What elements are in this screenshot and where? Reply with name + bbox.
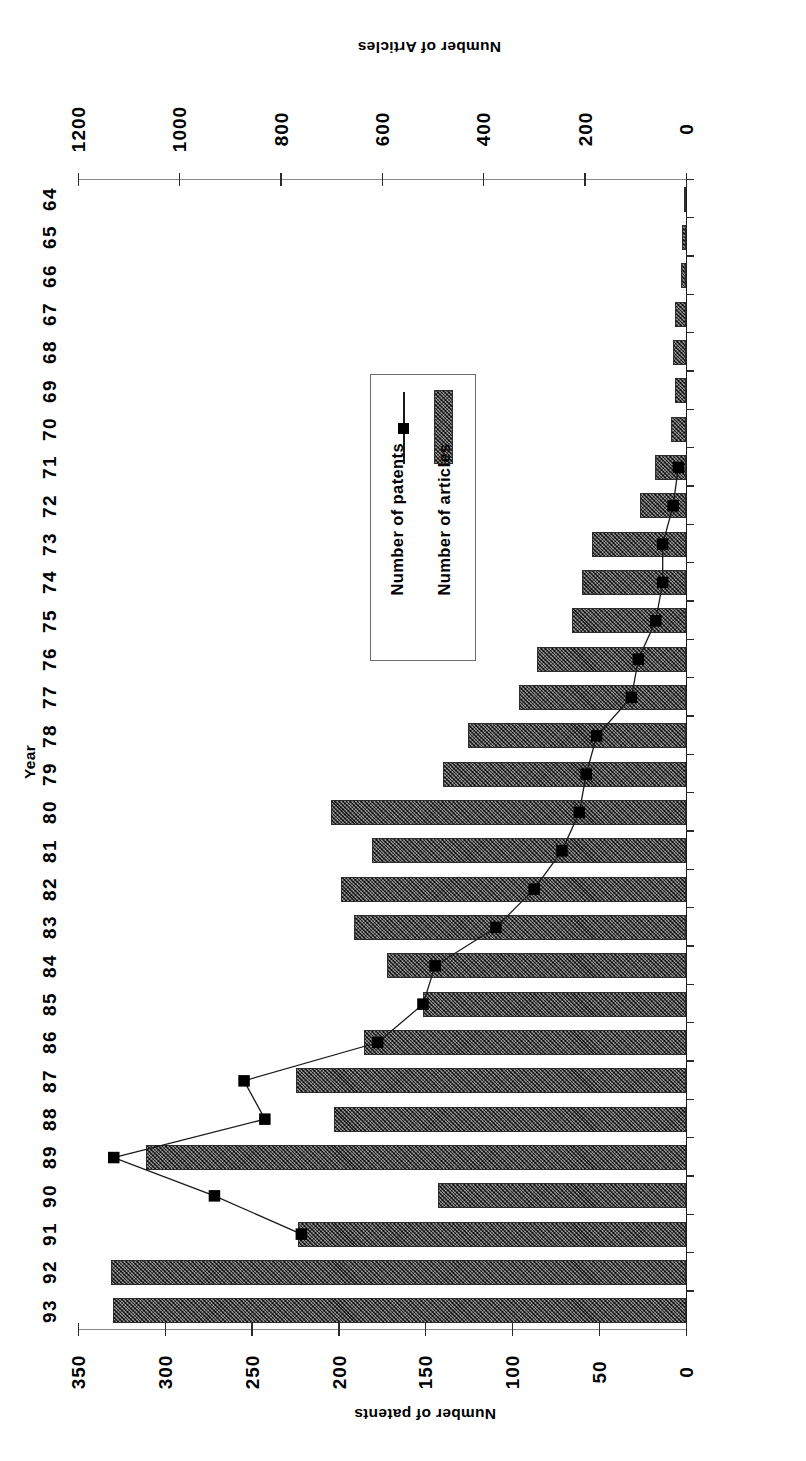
patents-marker-74 bbox=[657, 577, 669, 589]
patents-marker-71 bbox=[673, 462, 685, 474]
patents-marker-86 bbox=[372, 1037, 384, 1049]
patents-tick-350 bbox=[78, 1323, 79, 1336]
articles-tick-label-200: 200 bbox=[575, 99, 597, 159]
patents-marker-83 bbox=[490, 922, 502, 934]
year-label-84: 84 bbox=[39, 949, 61, 983]
category-tick-93 bbox=[686, 1290, 694, 1291]
articles-tick-label-800: 800 bbox=[271, 99, 293, 159]
year-label-85: 85 bbox=[39, 987, 61, 1021]
year-label-90: 90 bbox=[39, 1179, 61, 1213]
patents-tick-50 bbox=[599, 1323, 600, 1336]
year-label-81: 81 bbox=[39, 834, 61, 868]
articles-tick-label-0: 0 bbox=[676, 99, 698, 159]
patents-marker-87 bbox=[238, 1075, 250, 1087]
secondary-axis-title: Number of patents bbox=[354, 1405, 496, 1423]
patents-tick-label-100: 100 bbox=[502, 1342, 524, 1402]
patents-marker-88 bbox=[259, 1113, 271, 1125]
year-label-83: 83 bbox=[39, 911, 61, 945]
category-tick-89 bbox=[686, 1137, 694, 1138]
category-tick-80 bbox=[686, 792, 694, 793]
year-label-82: 82 bbox=[39, 872, 61, 906]
patents-marker-78 bbox=[591, 730, 603, 742]
year-label-66: 66 bbox=[39, 259, 61, 293]
year-label-91: 91 bbox=[39, 1217, 61, 1251]
category-tick-81 bbox=[686, 830, 694, 831]
year-label-92: 92 bbox=[39, 1256, 61, 1290]
patents-tick-200 bbox=[338, 1323, 339, 1336]
year-label-75: 75 bbox=[39, 604, 61, 638]
patents-marker-72 bbox=[667, 500, 679, 512]
category-tick-72 bbox=[686, 485, 694, 486]
articles-tick-200 bbox=[584, 173, 585, 186]
year-label-80: 80 bbox=[39, 796, 61, 830]
legend-label-articles: Number of articles bbox=[435, 506, 454, 596]
category-tick-88 bbox=[686, 1099, 694, 1100]
year-label-77: 77 bbox=[39, 681, 61, 715]
year-label-64: 64 bbox=[39, 182, 61, 216]
year-label-88: 88 bbox=[39, 1102, 61, 1136]
articles-tick-600 bbox=[382, 173, 383, 186]
patents-tick-label-200: 200 bbox=[329, 1342, 351, 1402]
patents-tick-label-350: 350 bbox=[68, 1342, 90, 1402]
category-tick-90 bbox=[686, 1175, 694, 1176]
year-label-72: 72 bbox=[39, 489, 61, 523]
chart-canvas: 6465666768697071727374757677787980818283… bbox=[0, 0, 806, 1461]
legend-square-marker-icon bbox=[399, 423, 410, 434]
patents-tick-label-300: 300 bbox=[155, 1342, 177, 1402]
patents-marker-89 bbox=[108, 1152, 120, 1164]
patents-marker-84 bbox=[429, 960, 441, 972]
legend: Number of articles Number of patents bbox=[370, 374, 476, 661]
category-tick-83 bbox=[686, 907, 694, 908]
patents-marker-77 bbox=[626, 692, 638, 704]
category-tick-79 bbox=[686, 754, 694, 755]
patents-tick-label-50: 50 bbox=[589, 1342, 611, 1402]
patents-marker-81 bbox=[556, 845, 568, 857]
articles-tick-1200 bbox=[78, 173, 79, 186]
patents-marker-90 bbox=[209, 1190, 221, 1202]
category-tick-78 bbox=[686, 715, 694, 716]
category-tick-77 bbox=[686, 677, 694, 678]
category-tick-91 bbox=[686, 1214, 694, 1215]
year-label-71: 71 bbox=[39, 451, 61, 485]
category-tick-65 bbox=[686, 217, 694, 218]
category-axis-title: Year bbox=[21, 745, 39, 779]
category-tick-87 bbox=[686, 1060, 694, 1061]
category-tick-71 bbox=[686, 447, 694, 448]
patents-marker-79 bbox=[581, 768, 593, 780]
plot-area: 6465666768697071727374757677787980818283… bbox=[79, 180, 687, 1330]
year-label-79: 79 bbox=[39, 757, 61, 791]
patents-tick-300 bbox=[165, 1323, 166, 1336]
year-label-78: 78 bbox=[39, 719, 61, 753]
category-tick-69 bbox=[686, 370, 694, 371]
category-tick-75 bbox=[686, 600, 694, 601]
patents-line-series bbox=[79, 180, 687, 1330]
year-label-73: 73 bbox=[39, 527, 61, 561]
category-tick-73 bbox=[686, 524, 694, 525]
year-label-87: 87 bbox=[39, 1064, 61, 1098]
primary-axis-title: Number of Articles bbox=[358, 38, 502, 56]
patents-marker-75 bbox=[650, 615, 662, 627]
patents-tick-label-250: 250 bbox=[242, 1342, 264, 1402]
patents-marker-91 bbox=[296, 1228, 308, 1240]
legend-label-patents: Number of patents bbox=[388, 506, 407, 596]
category-tick-67 bbox=[686, 294, 694, 295]
patents-tick-100 bbox=[512, 1323, 513, 1336]
year-label-69: 69 bbox=[39, 374, 61, 408]
articles-tick-label-400: 400 bbox=[473, 99, 495, 159]
articles-tick-label-1200: 1200 bbox=[68, 99, 90, 159]
year-label-86: 86 bbox=[39, 1026, 61, 1060]
figure-root: 6465666768697071727374757677787980818283… bbox=[0, 0, 806, 1461]
category-tick-86 bbox=[686, 1022, 694, 1023]
year-label-93: 93 bbox=[39, 1294, 61, 1328]
year-label-76: 76 bbox=[39, 642, 61, 676]
patents-marker-73 bbox=[657, 538, 669, 550]
category-tick-68 bbox=[686, 332, 694, 333]
articles-tick-label-1000: 1000 bbox=[169, 99, 191, 159]
patents-tick-label-0: 0 bbox=[676, 1342, 698, 1402]
category-tick-76 bbox=[686, 639, 694, 640]
category-tick-64 bbox=[686, 179, 694, 180]
category-tick-74 bbox=[686, 562, 694, 563]
patents-marker-85 bbox=[417, 998, 429, 1010]
articles-tick-1000 bbox=[179, 173, 180, 186]
year-label-70: 70 bbox=[39, 412, 61, 446]
